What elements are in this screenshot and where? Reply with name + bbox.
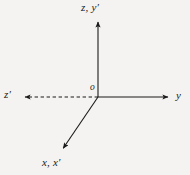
coordinate-axes-diagram: z, y′ y z′ x, x′ o <box>0 0 190 175</box>
axis-line-diagonal-x-xprime <box>63 97 98 148</box>
axes-canvas <box>0 0 190 175</box>
axis-label-z-yprime: z, y′ <box>81 2 99 13</box>
axis-label-zprime: z′ <box>4 89 11 100</box>
axis-label-y: y <box>176 90 181 101</box>
origin-label: o <box>90 83 95 93</box>
axis-label-x-xprime: x, x′ <box>42 157 61 168</box>
